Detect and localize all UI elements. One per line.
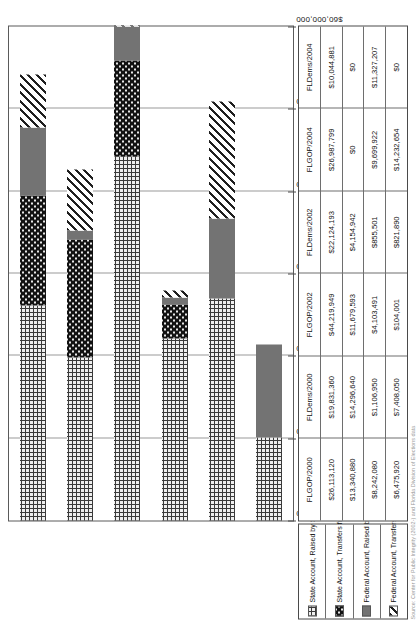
legend-swatch-icon bbox=[335, 605, 344, 616]
bar-segment bbox=[67, 239, 93, 357]
x-axis-tick-mark bbox=[288, 191, 296, 192]
legend-item: State Account, Raised by State Party bbox=[299, 524, 326, 618]
table-column-header: FLDems/2000 bbox=[299, 355, 320, 438]
stacked-bar bbox=[209, 101, 235, 520]
table-cell: $855,501 bbox=[364, 190, 385, 273]
table-cell: $0 bbox=[343, 108, 364, 191]
x-axis-tick-mark bbox=[288, 520, 296, 521]
bar-segment bbox=[20, 74, 46, 127]
x-axis-tick-mark bbox=[288, 108, 296, 109]
table-cell: $26,113,120 bbox=[321, 438, 342, 521]
table-cell: $9,699,922 bbox=[364, 108, 385, 191]
legend-swatch-icon bbox=[389, 605, 398, 616]
bar-group-flgop-2000 bbox=[9, 26, 56, 520]
table-row: $8,242,080$1,106,950$4,103,491$855,501$9… bbox=[364, 26, 386, 520]
legend-item: Federal Account, Transfers from National… bbox=[381, 524, 407, 618]
legend-swatch-icon bbox=[362, 605, 371, 616]
table-column-header: FLDems/2002 bbox=[299, 190, 320, 273]
table-cell: $19,831,360 bbox=[321, 355, 342, 438]
bar-group-fldems-2000 bbox=[56, 26, 103, 520]
table-cell: $104,001 bbox=[386, 273, 407, 356]
bar-segment bbox=[20, 305, 46, 520]
table-row: $13,340,880$14,296,640$11,679,593$4,154,… bbox=[343, 26, 365, 520]
bar-segment bbox=[20, 127, 46, 195]
x-axis-tick-mark bbox=[288, 355, 296, 356]
table-cell: $0 bbox=[386, 26, 407, 108]
bar-segment bbox=[209, 218, 235, 298]
table-cell: $44,219,949 bbox=[321, 273, 342, 356]
bar-segment bbox=[67, 230, 93, 239]
bar-segment bbox=[209, 298, 235, 520]
source-caption: Source: Center for Public Integrity (200… bbox=[410, 1, 416, 619]
plot-left-margin bbox=[8, 523, 294, 619]
x-axis-tick-label: $60,000,000 bbox=[296, 14, 343, 23]
bar-segment bbox=[209, 101, 235, 218]
table-cell: $26,987,799 bbox=[321, 108, 342, 191]
stacked-bar bbox=[162, 290, 188, 520]
x-axis-tick-mark bbox=[288, 438, 296, 439]
table-header-row: FLGOP/2000FLDems/2000FLGOP/2002FLDems/20… bbox=[299, 26, 321, 520]
bar-segment bbox=[162, 304, 188, 338]
bar-segment bbox=[67, 169, 93, 230]
table-cell: $4,154,942 bbox=[343, 190, 364, 273]
table-column-header: FLGOP/2000 bbox=[299, 438, 320, 521]
chart-plot-area bbox=[8, 25, 294, 521]
stacked-bar bbox=[20, 74, 46, 520]
bar-group-flgop-2002 bbox=[104, 26, 151, 520]
table-column-header: FLGOP/2004 bbox=[299, 108, 320, 191]
table-cell: $11,327,207 bbox=[364, 26, 385, 108]
legend-swatch-icon bbox=[308, 605, 317, 616]
page-root: $60,000,000$50,000,000$40,000,000$30,000… bbox=[0, 0, 420, 621]
table-cell: $10,044,881 bbox=[321, 26, 342, 108]
legend-item: State Account, Transfers from National P… bbox=[326, 524, 353, 618]
x-axis-tick-mark bbox=[288, 273, 296, 274]
stacked-bar bbox=[256, 344, 282, 520]
bar-group-fldems-2004 bbox=[246, 26, 293, 520]
table-cell: $0 bbox=[343, 26, 364, 108]
bar-group-flgop-2004 bbox=[198, 26, 245, 520]
stacked-bar bbox=[67, 169, 93, 520]
table-cell: $1,106,950 bbox=[364, 355, 385, 438]
x-axis-tick-mark bbox=[288, 26, 296, 27]
bar-segment bbox=[20, 195, 46, 305]
bar-segment bbox=[114, 25, 140, 26]
bar-segment bbox=[114, 156, 140, 520]
bar-segment bbox=[256, 437, 282, 520]
table-cell: $7,408,050 bbox=[386, 355, 407, 438]
table-cell: $14,232,654 bbox=[386, 108, 407, 191]
table-cell: $22,124,193 bbox=[321, 190, 342, 273]
table-column-header: FLGOP/2002 bbox=[299, 273, 320, 356]
data-table: FLGOP/2000FLDems/2000FLGOP/2002FLDems/20… bbox=[298, 25, 408, 521]
legend-item: Federal Account, Raised by State Party bbox=[354, 524, 381, 618]
stacked-bar bbox=[114, 25, 140, 520]
bar-segment bbox=[256, 344, 282, 437]
bar-segment bbox=[162, 297, 188, 304]
table-cell: $14,296,640 bbox=[343, 355, 364, 438]
chart-legend: State Account, Raised by State PartyStat… bbox=[298, 523, 408, 619]
table-row: $6,475,920$7,408,050$104,001$821,890$14,… bbox=[386, 26, 407, 520]
table-cell: $8,242,080 bbox=[364, 438, 385, 521]
table-row: $26,113,120$19,831,360$44,219,949$22,124… bbox=[321, 26, 343, 520]
figure: $60,000,000$50,000,000$40,000,000$30,000… bbox=[0, 0, 420, 621]
table-cell: $13,340,880 bbox=[343, 438, 364, 521]
table-cell: $821,890 bbox=[386, 190, 407, 273]
bar-group-fldems-2002 bbox=[151, 26, 198, 520]
table-cell: $6,475,920 bbox=[386, 438, 407, 521]
bar-segment bbox=[162, 290, 188, 297]
table-cell: $4,103,491 bbox=[364, 273, 385, 356]
table-cell: $11,679,593 bbox=[343, 273, 364, 356]
bar-segment bbox=[114, 60, 140, 156]
bar-segment bbox=[162, 338, 188, 520]
bar-segment bbox=[67, 357, 93, 520]
bar-segment bbox=[114, 26, 140, 60]
table-column-header: FLDems/2004 bbox=[299, 26, 320, 108]
